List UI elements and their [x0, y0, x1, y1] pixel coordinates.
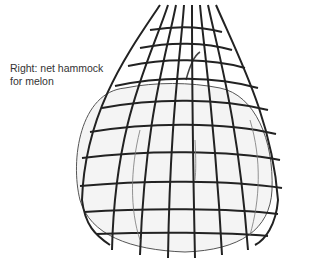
melon-net-illustration	[0, 0, 309, 265]
illustration-page: Right: net hammock for melon	[0, 0, 309, 265]
